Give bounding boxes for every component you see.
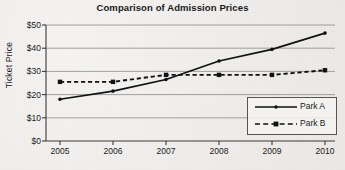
data-point-marker: [217, 59, 221, 63]
x-axis-ticks: [60, 141, 325, 145]
legend-label-park-b: Park B: [300, 118, 326, 128]
y-tick-label: $40: [27, 43, 41, 53]
x-tick-label: 2009: [263, 146, 282, 156]
x-tick-label: 2010: [316, 146, 335, 156]
data-point-marker: [164, 73, 168, 77]
data-point-marker: [270, 73, 274, 77]
data-point-marker: [58, 80, 62, 84]
y-tick-label: $20: [27, 90, 41, 100]
legend-item-park-b[interactable]: Park B: [248, 116, 336, 132]
data-point-marker: [323, 68, 327, 72]
data-point-marker: [58, 97, 62, 101]
legend-swatch-park-b: [254, 116, 298, 132]
series-park-a: [58, 31, 327, 101]
y-tick-label: $30: [27, 66, 41, 76]
data-point-marker: [323, 31, 327, 35]
y-tick-label: $0: [32, 136, 41, 146]
legend-item-park-a[interactable]: Park A: [248, 99, 336, 115]
y-tick-label: $50: [27, 20, 41, 30]
series-line: [60, 33, 325, 99]
series-line: [60, 70, 325, 82]
y-axis-label: Ticket Price: [4, 35, 14, 95]
legend-swatch-park-a: [254, 99, 298, 115]
data-point-marker: [111, 89, 115, 93]
data-point-marker: [111, 80, 115, 84]
chart-title: Comparison of Admission Prices: [0, 2, 345, 13]
chart-page: Comparison of Admission Prices Ticket Pr…: [0, 0, 345, 170]
x-tick-label: 2006: [104, 146, 123, 156]
data-point-marker: [270, 48, 274, 52]
x-tick-label: 2008: [210, 146, 229, 156]
x-tick-label: 2005: [51, 146, 70, 156]
legend-label-park-a: Park A: [300, 101, 325, 111]
x-tick-label: 2007: [157, 146, 176, 156]
y-axis-ticks: [42, 25, 46, 141]
data-point-marker: [217, 73, 221, 77]
data-point-marker: [164, 78, 168, 82]
chart-legend: Park A Park B: [247, 97, 337, 135]
y-tick-label: $10: [27, 113, 41, 123]
